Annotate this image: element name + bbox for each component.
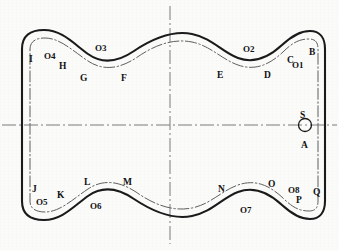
point-label-e: E: [217, 71, 223, 81]
arc-center-label-o8: O8: [288, 186, 300, 195]
point-label-o: O: [268, 180, 275, 190]
point-label-a: A: [301, 141, 308, 151]
arc-center-label-o5: O5: [36, 198, 48, 207]
point-label-b: B: [309, 48, 315, 58]
point-label-l: L: [84, 178, 90, 188]
profile-drawing: [0, 0, 339, 250]
point-label-d: D: [264, 71, 271, 81]
point-label-k: K: [57, 191, 64, 201]
point-label-j: J: [32, 185, 37, 195]
point-label-m: M: [123, 178, 132, 188]
point-label-g: G: [80, 74, 87, 84]
diagram-canvas: IHGFEDCBSAQPONMLKJO1O2O3O4O5O6O7O8: [0, 0, 339, 250]
point-label-s: S: [300, 111, 305, 121]
point-label-p: P: [296, 196, 302, 206]
arc-center-label-o6: O6: [90, 202, 102, 211]
point-label-n: N: [218, 185, 225, 195]
arc-center-label-o2: O2: [243, 45, 255, 54]
point-label-q: Q: [313, 188, 320, 198]
arc-center-label-o3: O3: [95, 44, 107, 53]
point-label-f: F: [121, 74, 127, 84]
arc-center-label-o1: O1: [292, 61, 304, 70]
arc-center-label-o7: O7: [240, 206, 252, 215]
arc-center-label-o4: O4: [44, 52, 56, 61]
point-label-h: H: [59, 62, 66, 72]
point-label-i: I: [29, 55, 33, 65]
